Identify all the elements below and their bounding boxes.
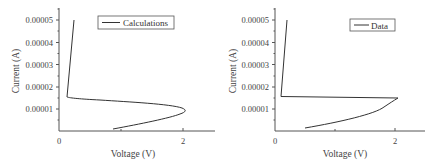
y-tick-label: 0.00002 bbox=[25, 82, 53, 92]
y-tick-label: 0.00003 bbox=[241, 60, 269, 70]
x-tick-label: 0 bbox=[57, 136, 61, 146]
calculations-curve bbox=[67, 20, 185, 129]
chart-calculations: 0.00005 0.00004 0.00003 0.00002 0.00001 … bbox=[11, 8, 215, 160]
x-axis-label: Voltage (V) bbox=[111, 149, 155, 160]
y-tick-label: 0.00001 bbox=[25, 104, 53, 114]
y-tick-label: 0.00003 bbox=[25, 60, 53, 70]
chart-data: 0.00005 0.00004 0.00003 0.00002 0.00001 … bbox=[228, 8, 425, 160]
y-axis-label: Current (A) bbox=[228, 49, 239, 94]
y-tick-label: 0.00001 bbox=[241, 104, 269, 114]
legend-label: Data bbox=[371, 21, 388, 31]
y-tick-label: 0.00005 bbox=[241, 15, 269, 25]
x-tick-label: 2 bbox=[393, 136, 397, 146]
y-tick-label: 0.00004 bbox=[25, 38, 53, 48]
legend-label: Calculations bbox=[123, 18, 168, 28]
x-tick-label: 2 bbox=[181, 136, 185, 146]
y-axis-label: Current (A) bbox=[11, 49, 22, 94]
y-tick-label: 0.00004 bbox=[241, 38, 269, 48]
x-tick-label: 0 bbox=[273, 136, 277, 146]
legend: Data bbox=[350, 19, 395, 31]
x-axis-label: Voltage (V) bbox=[323, 149, 367, 160]
y-tick-label: 0.00002 bbox=[241, 82, 269, 92]
y-tick-label: 0.00005 bbox=[25, 15, 53, 25]
legend: Calculations bbox=[98, 16, 174, 29]
data-curve bbox=[281, 20, 398, 128]
figure: 0.00005 0.00004 0.00003 0.00002 0.00001 … bbox=[0, 0, 433, 166]
